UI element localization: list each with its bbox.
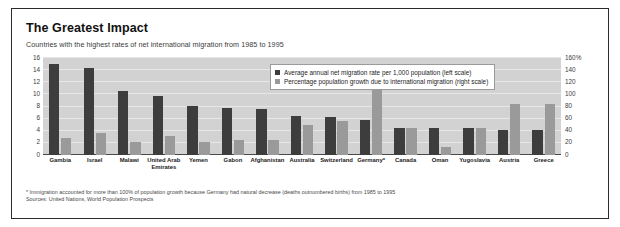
- left-axis-tick-label: 4: [22, 127, 40, 133]
- left-axis-tick-label: 10: [22, 91, 40, 97]
- footnote-sources: Sources: United Nations, World Populatio…: [26, 196, 586, 203]
- left-axis-tick-label: 14: [22, 67, 40, 73]
- right-axis-tick-label: 40: [565, 127, 591, 133]
- bar-population-growth-pct: [545, 104, 555, 155]
- category-label: Greece: [519, 157, 569, 164]
- left-axis-tick-label: 16: [22, 55, 40, 61]
- legend-item: Percentage population growth due to inte…: [275, 77, 488, 86]
- bar-group: [526, 58, 561, 155]
- right-axis-tick-label: 20: [565, 139, 591, 145]
- bar-group: [492, 58, 527, 155]
- bar-population-growth-pct: [96, 133, 106, 155]
- right-axis-tick-label: 120: [565, 79, 591, 85]
- footnotes: * Immigration accounted for more than 10…: [26, 189, 586, 203]
- bar-population-growth-pct: [372, 87, 382, 156]
- bar-migration-rate: [463, 128, 473, 155]
- left-axis: 0246810121416: [20, 58, 40, 155]
- bar-population-growth-pct: [234, 140, 244, 155]
- bar-population-growth-pct: [476, 128, 486, 155]
- right-axis-tick-label: 0: [565, 152, 591, 158]
- bar-migration-rate: [187, 106, 197, 155]
- bar-migration-rate: [429, 128, 439, 155]
- bar-migration-rate: [222, 108, 232, 155]
- bar-migration-rate: [291, 116, 301, 155]
- chart-figure: The Greatest Impact Countries with the h…: [11, 8, 609, 219]
- bar-population-growth-pct: [199, 142, 209, 155]
- bar-migration-rate: [498, 130, 508, 155]
- left-axis-tick-label: 2: [22, 139, 40, 145]
- bar-migration-rate: [394, 128, 404, 155]
- bar-migration-rate: [153, 96, 163, 155]
- bar-group: [147, 58, 182, 155]
- bar-group: [78, 58, 113, 155]
- bar-population-growth-pct: [406, 128, 416, 155]
- bar-migration-rate: [49, 64, 59, 155]
- right-axis-tick-label: 160%: [565, 55, 591, 61]
- bar-population-growth-pct: [510, 104, 520, 155]
- bar-population-growth-pct: [61, 138, 71, 155]
- bar-population-growth-pct: [130, 142, 140, 155]
- square-swatch-icon: [275, 79, 280, 84]
- chart-title: The Greatest Impact: [26, 21, 148, 35]
- right-axis-tick-label: 100: [565, 91, 591, 97]
- bar-migration-rate: [84, 68, 94, 155]
- left-axis-tick-label: 12: [22, 79, 40, 85]
- bar-population-growth-pct: [441, 147, 451, 155]
- bar-migration-rate: [360, 120, 370, 155]
- bar-group: [112, 58, 147, 155]
- bar-group: [181, 58, 216, 155]
- category-axis-labels: GambiaIsraelMalawiUnited Arab EmiratesYe…: [43, 157, 561, 179]
- square-swatch-icon: [275, 70, 280, 75]
- bar-population-growth-pct: [165, 136, 175, 155]
- right-axis-tick-label: 140: [565, 67, 591, 73]
- bar-group: [216, 58, 251, 155]
- chart-subtitle: Countries with the highest rates of net …: [26, 40, 284, 49]
- chart-legend: Average annual net migration rate per 1,…: [270, 64, 495, 90]
- legend-item-label: Average annual net migration rate per 1,…: [284, 69, 471, 76]
- right-axis-tick-label: 60: [565, 115, 591, 121]
- right-axis: 020406080100120140160%: [565, 58, 595, 155]
- right-axis-tick-label: 80: [565, 103, 591, 109]
- bar-population-growth-pct: [268, 140, 278, 155]
- footnote-germany: * Immigration accounted for more than 10…: [26, 189, 586, 196]
- bar-migration-rate: [118, 91, 128, 155]
- bar-migration-rate: [532, 130, 542, 155]
- bar-group: [43, 58, 78, 155]
- legend-item: Average annual net migration rate per 1,…: [275, 68, 488, 77]
- bar-population-growth-pct: [303, 125, 313, 155]
- left-axis-tick-label: 6: [22, 115, 40, 121]
- bar-population-growth-pct: [337, 121, 347, 155]
- bar-migration-rate: [256, 109, 266, 155]
- legend-item-label: Percentage population growth due to inte…: [284, 78, 488, 85]
- bar-migration-rate: [325, 117, 335, 155]
- left-axis-tick-label: 8: [22, 103, 40, 109]
